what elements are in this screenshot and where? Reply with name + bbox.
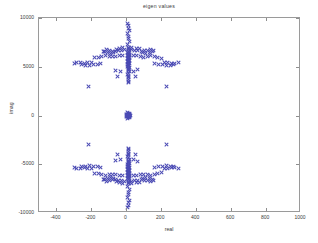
data-point-marker xyxy=(118,157,123,162)
data-point-marker xyxy=(125,116,130,121)
data-point-marker xyxy=(102,49,107,54)
data-point-marker xyxy=(134,180,139,185)
data-point-marker xyxy=(151,172,156,177)
y-axis-tick-label: 0 xyxy=(0,112,34,118)
data-point-marker xyxy=(126,168,131,173)
data-point-marker xyxy=(126,112,131,117)
data-point-marker xyxy=(124,112,129,117)
data-point-marker xyxy=(126,66,131,71)
data-point-marker xyxy=(141,172,146,177)
data-point-marker xyxy=(116,48,121,53)
data-point-marker xyxy=(108,175,113,180)
data-point-marker xyxy=(126,57,131,62)
data-point-marker xyxy=(172,61,177,66)
data-point-marker xyxy=(85,84,90,89)
data-point-marker xyxy=(172,165,177,170)
x-axis-tick xyxy=(231,18,232,21)
x-axis-tick xyxy=(196,208,197,211)
data-point-marker xyxy=(126,71,131,76)
data-point-marker xyxy=(164,142,169,147)
data-point-marker xyxy=(87,63,92,68)
data-point-marker xyxy=(125,173,130,178)
data-point-marker xyxy=(113,68,118,73)
data-point-marker xyxy=(113,177,118,182)
data-point-marker xyxy=(125,42,130,47)
data-point-marker xyxy=(125,164,130,169)
data-point-marker xyxy=(107,178,112,183)
data-point-marker xyxy=(104,179,109,184)
data-point-marker xyxy=(126,177,131,182)
data-point-marker xyxy=(120,173,125,178)
data-point-marker xyxy=(151,48,156,53)
x-axis-label: real xyxy=(38,226,300,232)
y-axis-tick xyxy=(39,67,42,68)
data-point-marker xyxy=(127,111,132,116)
data-point-marker xyxy=(126,63,131,68)
data-point-marker xyxy=(126,175,131,180)
data-point-marker xyxy=(118,69,123,74)
data-point-marker xyxy=(126,58,131,63)
data-point-marker xyxy=(134,173,139,178)
data-point-marker xyxy=(127,114,132,119)
data-point-marker xyxy=(137,180,142,185)
data-point-marker xyxy=(126,74,131,79)
data-point-marker xyxy=(126,173,131,178)
y-axis-tick-label: -5000 xyxy=(0,160,34,166)
data-point-marker xyxy=(125,31,130,36)
data-point-marker xyxy=(125,61,130,66)
y-axis-tick xyxy=(296,67,299,68)
data-point-marker xyxy=(117,53,122,58)
data-point-marker xyxy=(126,77,131,82)
data-point-marker xyxy=(130,53,135,58)
x-axis-tick xyxy=(266,18,267,21)
data-point-marker xyxy=(117,173,122,178)
data-point-marker xyxy=(102,177,107,182)
data-point-marker xyxy=(126,113,131,118)
data-point-marker xyxy=(129,179,134,184)
data-point-marker xyxy=(125,72,130,77)
data-point-marker xyxy=(126,68,131,73)
data-point-marker xyxy=(113,172,118,177)
data-point-marker xyxy=(126,62,131,67)
data-point-marker xyxy=(125,200,130,205)
data-point-marker xyxy=(125,62,130,67)
data-point-marker xyxy=(126,160,131,165)
data-point-marker xyxy=(127,112,132,117)
data-point-marker xyxy=(126,163,131,168)
data-point-marker xyxy=(125,64,130,69)
data-point-marker xyxy=(126,63,131,68)
data-point-marker xyxy=(125,159,130,164)
data-point-marker xyxy=(107,172,112,177)
data-point-marker xyxy=(148,179,153,184)
data-point-marker xyxy=(128,113,133,118)
data-point-marker xyxy=(126,149,131,154)
data-point-marker xyxy=(125,113,130,118)
data-point-marker xyxy=(78,166,83,171)
data-point-marker xyxy=(129,47,134,52)
data-point-marker xyxy=(126,181,131,186)
data-point-marker xyxy=(126,23,131,28)
x-axis-tick xyxy=(231,208,232,211)
data-point-marker xyxy=(126,114,131,119)
data-point-marker xyxy=(126,172,131,177)
data-point-marker xyxy=(126,151,131,156)
data-point-marker xyxy=(107,54,112,59)
data-point-marker xyxy=(94,164,99,169)
data-point-marker xyxy=(110,172,115,177)
data-point-marker xyxy=(124,113,129,118)
data-point-marker xyxy=(155,171,160,176)
data-point-marker xyxy=(127,171,132,176)
data-point-marker xyxy=(125,53,130,58)
data-point-marker xyxy=(82,61,87,66)
data-point-marker xyxy=(145,178,150,183)
data-point-marker xyxy=(127,178,132,183)
data-point-marker xyxy=(160,164,165,169)
y-axis-tick xyxy=(296,164,299,165)
data-point-marker xyxy=(152,165,157,170)
data-point-marker xyxy=(126,160,131,165)
data-point-marker xyxy=(135,178,140,183)
data-point-marker xyxy=(126,190,131,195)
data-point-marker xyxy=(133,74,138,79)
y-axis-tick xyxy=(296,116,299,117)
data-point-marker xyxy=(126,54,131,59)
